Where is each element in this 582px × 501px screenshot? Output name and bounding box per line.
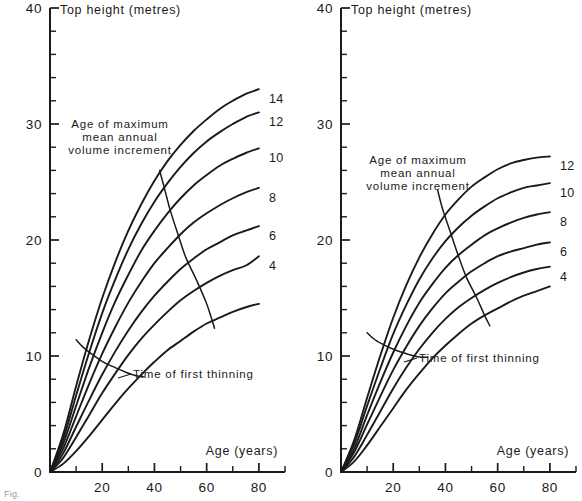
yield-class-curve-10 xyxy=(341,183,550,472)
annotation-line-2: mean annual xyxy=(380,167,455,179)
figure-caption: Fig. xyxy=(4,489,578,501)
y-axis-title: Top height (metres) xyxy=(60,3,181,17)
annotation-line-1: Age of maximum xyxy=(71,118,168,130)
series-label-12: 12 xyxy=(269,115,284,129)
series-label-14: 14 xyxy=(269,92,284,106)
series-label-6: 6 xyxy=(269,229,276,243)
figure-sheet: 010203040 20406080 Top height (metres) A… xyxy=(0,0,582,501)
yield-class-curve-8 xyxy=(341,212,550,472)
x-axis-title: Age (years) xyxy=(497,444,569,458)
y-tick-label: 10 xyxy=(26,349,42,364)
series-label-4: 4 xyxy=(560,270,567,284)
series-label-8: 8 xyxy=(269,191,276,205)
x-axis-title: Age (years) xyxy=(206,444,278,458)
chart-svg-right: 010203040 20406080 Top height (metres) A… xyxy=(291,0,582,501)
y-tick-label: 0 xyxy=(325,465,333,480)
series-label-8: 8 xyxy=(560,215,567,229)
y-tick-marks xyxy=(50,8,59,472)
first-thinning-label: Time of first thinning xyxy=(133,368,254,380)
chart-panel-left: 010203040 20406080 Top height (metres) A… xyxy=(0,0,291,501)
annotation-line-1: Age of maximum xyxy=(369,154,466,166)
y-tick-marks xyxy=(341,8,350,472)
annotation-line-2: mean annual xyxy=(82,131,157,143)
y-tick-label: 40 xyxy=(26,1,42,16)
series-label-12: 12 xyxy=(560,159,575,173)
first-thinning-label: Time of first thinning xyxy=(419,352,540,364)
y-tick-label: 30 xyxy=(317,117,333,132)
y-tick-label: 10 xyxy=(317,349,333,364)
y-tick-label: 30 xyxy=(26,117,42,132)
yield-class-curve-10 xyxy=(50,148,259,472)
annotation-line-3: volume increment xyxy=(68,144,172,156)
y-tick-label: 0 xyxy=(34,465,42,480)
annotation-line-3: volume increment xyxy=(366,180,470,192)
x-tick-marks xyxy=(367,463,576,472)
series-label-6: 6 xyxy=(560,245,567,259)
series-label-10: 10 xyxy=(269,151,284,165)
y-axis-title: Top height (metres) xyxy=(351,3,472,17)
y-tick-label: 40 xyxy=(317,1,333,16)
axes-right xyxy=(341,8,576,472)
x-tick-marks xyxy=(76,463,285,472)
axes-left xyxy=(50,8,285,472)
chart-svg-left: 010203040 20406080 Top height (metres) A… xyxy=(0,0,291,501)
series-label-10: 10 xyxy=(560,186,575,200)
max-mai-leader-curve xyxy=(438,190,490,326)
series-labels: 141210864 xyxy=(269,92,284,273)
yield-class-curves xyxy=(341,156,550,472)
y-tick-label: 20 xyxy=(317,233,333,248)
series-labels: 1210864 xyxy=(560,159,575,283)
chart-panel-right: 010203040 20406080 Top height (metres) A… xyxy=(291,0,582,501)
series-label-4: 4 xyxy=(269,259,276,273)
axis-lines xyxy=(341,8,576,472)
y-tick-labels: 010203040 xyxy=(26,1,42,480)
y-tick-label: 20 xyxy=(26,233,42,248)
first-thinning-leader xyxy=(118,374,131,378)
axis-lines xyxy=(50,8,285,472)
y-tick-labels: 010203040 xyxy=(317,1,333,480)
